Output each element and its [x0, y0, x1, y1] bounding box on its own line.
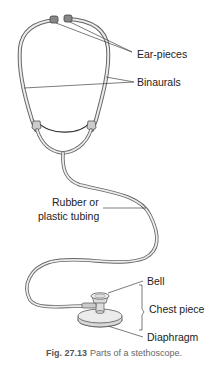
label-binaurals: Binaurals [137, 76, 181, 88]
label-tubing-line2: plastic tubing [38, 210, 99, 222]
figure-caption: Fig. 27.13Parts of a stethoscope. [46, 348, 182, 358]
y-tubing-drawing [37, 130, 91, 153]
ear-pieces-drawing [50, 15, 72, 23]
label-tubing-line1: Rubber or [52, 196, 99, 208]
figure-caption-text: Parts of a stethoscope. [90, 348, 182, 358]
label-bell: Bell [147, 275, 165, 287]
main-tubing-drawing [27, 153, 157, 307]
leader-lines [24, 22, 146, 337]
figure-number: Fig. 27.13 [46, 348, 87, 358]
label-chest-piece: Chest piece [149, 303, 204, 315]
chest-piece-drawing [78, 293, 122, 327]
label-ear-pieces: Ear-pieces [137, 48, 187, 60]
label-diaphragm: Diaphragm [147, 331, 198, 343]
spring-drawing [38, 122, 90, 132]
stethoscope-diagram: Ear-pieces Binaurals Rubber or plastic t… [0, 0, 212, 373]
binaurals-drawing [20, 19, 109, 130]
